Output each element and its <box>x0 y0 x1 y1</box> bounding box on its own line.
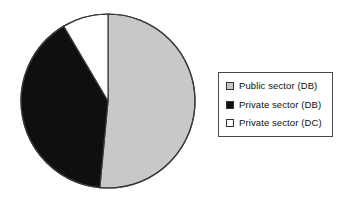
pie-slice-group <box>21 14 195 188</box>
chart-legend: Public sector (DB) Private sector (DB) P… <box>218 72 333 137</box>
legend-swatch-icon-public-sector-db <box>226 82 234 90</box>
pie-slice[interactable] <box>100 14 195 188</box>
legend-label-private-sector-dc: Private sector (DC) <box>239 118 322 128</box>
legend-item-private-sector-dc[interactable]: Private sector (DC) <box>226 115 326 131</box>
legend-swatch-icon-private-sector-db <box>226 101 234 109</box>
legend-swatch-icon-private-sector-dc <box>226 119 234 127</box>
legend-label-private-sector-db: Private sector (DB) <box>239 100 321 110</box>
pie-svg <box>18 4 200 202</box>
pie-plot-area <box>18 4 200 202</box>
legend-label-public-sector-db: Public sector (DB) <box>239 81 317 91</box>
pie-chart-figure: Public sector (DB) Private sector (DB) P… <box>0 0 350 205</box>
legend-item-private-sector-db[interactable]: Private sector (DB) <box>226 97 326 113</box>
legend-item-public-sector-db[interactable]: Public sector (DB) <box>226 78 326 94</box>
